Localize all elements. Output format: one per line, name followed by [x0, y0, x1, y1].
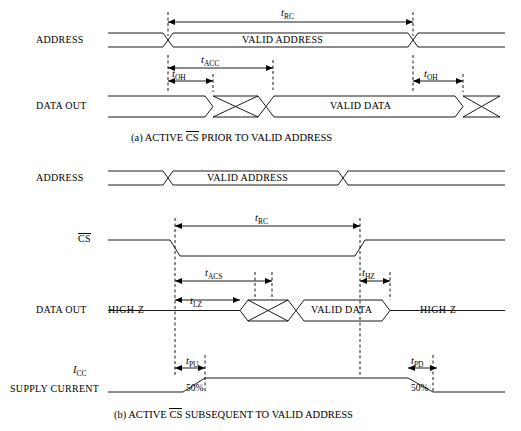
signal-label-data-out-b: DATA OUT: [36, 304, 87, 315]
timing-label-toh-right: tOH: [424, 68, 438, 82]
signal-label-cs: CS: [78, 233, 91, 245]
caption-a: (a) ACTIVE CS PRIOR TO VALID ADDRESS: [131, 131, 332, 143]
supply-current-waveform: [108, 378, 505, 392]
value-pct-right: 50%: [411, 383, 428, 393]
tacs-arrow: [175, 278, 272, 284]
value-valid-data-b: VALID DATA: [311, 304, 372, 315]
timing-label-thz: tHZ: [362, 267, 375, 281]
toh-right-arrow: [413, 55, 463, 92]
signal-label-address-a: ADDRESS: [36, 34, 84, 45]
timing-label-tacc: tACC: [201, 54, 219, 68]
cs-waveform: [108, 240, 505, 256]
address-bus-b: [108, 171, 505, 185]
signal-label-address-b: ADDRESS: [36, 172, 84, 183]
timing-label-tpd: tPD: [411, 355, 424, 369]
caption-b: (b) ACTIVE CS SUBSEQUENT TO VALID ADDRES…: [114, 408, 353, 420]
timing-label-toh-left: tOH: [172, 68, 186, 82]
value-high-z-right: HIGH-Z: [420, 304, 456, 315]
data-out-waveform-a: [108, 96, 500, 117]
signal-label-data-out-a: DATA OUT: [36, 100, 87, 111]
signal-label-icc: ICC: [73, 364, 87, 378]
signal-label-supply-current: SUPPLY CURRENT: [10, 383, 99, 394]
value-valid-address-a: VALID ADDRESS: [242, 34, 323, 45]
value-valid-address-b: VALID ADDRESS: [207, 172, 288, 183]
guide-lines-b: [175, 218, 433, 392]
tlz-arrow: [175, 297, 240, 303]
timing-label-trc-b: tRC: [255, 212, 268, 226]
value-pct-left: 50%: [186, 383, 203, 393]
timing-label-tacs: tACS: [205, 267, 223, 281]
value-valid-data-a: VALID DATA: [330, 100, 391, 111]
value-high-z-left: HIGH-Z: [108, 304, 144, 315]
timing-label-tlz: tLZ: [190, 295, 202, 309]
timing-label-tpu: tPU: [186, 355, 199, 369]
timing-label-trc-a: tRC: [281, 7, 294, 21]
